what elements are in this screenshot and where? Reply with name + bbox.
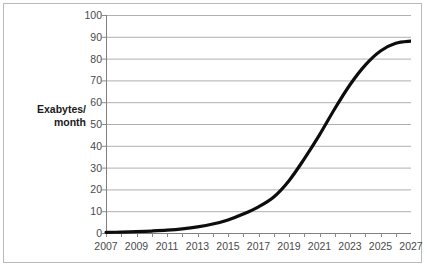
y-axis-label-10: 10 (68, 206, 102, 216)
y-axis-label-40: 40 (68, 141, 102, 151)
y-axis-label-20: 20 (68, 184, 102, 194)
chart-frame: Exabytes/ month 0102030405060708090100 2… (3, 3, 422, 263)
y-axis-label-80: 80 (68, 54, 102, 64)
x-axis-tick-labels: 2007200920112013201520172019202120232025… (106, 240, 411, 256)
y-axis-label-0: 0 (68, 228, 102, 238)
y-axis-label-100: 100 (68, 10, 102, 20)
data-series-line (106, 41, 411, 232)
y-axis-label-70: 70 (68, 75, 102, 85)
y-axis-tick-labels: 0102030405060708090100 (64, 15, 102, 233)
y-axis-label-90: 90 (68, 32, 102, 42)
y-axis-label-50: 50 (68, 119, 102, 129)
y-axis-label-60: 60 (68, 97, 102, 107)
chart-plot-svg (100, 15, 411, 241)
plot-area (106, 15, 411, 233)
x-axis-label-2027: 2027 (391, 240, 427, 252)
y-axis-label-30: 30 (68, 163, 102, 173)
